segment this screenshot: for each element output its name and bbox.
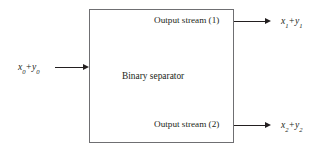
arrow-shaft [234,125,267,126]
output-1-sub-1: 1 [285,22,288,29]
arrow-shaft [234,21,267,22]
arrow-head-icon [83,64,89,70]
diagram-canvas: Binary separator x0+y0 Output stream (1)… [0,0,330,156]
output-2-expression: x2+y2 [281,120,303,130]
output-2-sub-1: 2 [285,126,288,133]
output-1-expression: x1+y1 [281,16,303,26]
input-sub-1: 0 [22,68,25,75]
arrow-head-icon [265,18,271,24]
binary-separator-label: Binary separator [122,72,184,81]
output-stream-2-label: Output stream (2) [154,120,219,129]
output-2-arrow [234,121,272,130]
output-stream-1-label: Output stream (1) [154,16,219,25]
input-sub-2: 0 [36,68,39,75]
input-arrow [55,63,90,72]
output-1-arrow [234,17,272,26]
output-1-sub-2: 1 [299,22,302,29]
arrow-head-icon [265,122,271,128]
arrow-shaft [55,67,85,68]
input-stream-expression: x0+y0 [18,62,40,72]
output-2-sub-2: 2 [299,126,302,133]
